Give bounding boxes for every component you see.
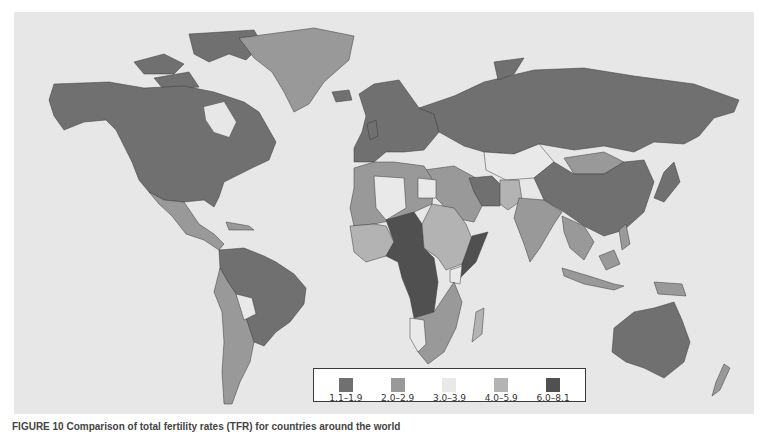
region-europe (354, 80, 439, 162)
region-india (514, 198, 562, 262)
legend-swatch (494, 378, 508, 392)
region-new-zealand (712, 364, 730, 396)
region-north-america (49, 82, 276, 207)
legend-label: 3.0–3.9 (433, 393, 466, 403)
legend-swatch (546, 378, 560, 392)
legend-item: 3.0–3.9 (424, 369, 474, 403)
figure-caption: FIGURE 10 Comparison of total fertility … (12, 421, 400, 432)
region-australia (612, 302, 690, 378)
legend-item: 1.1–1.9 (321, 369, 371, 403)
legend-label: 2.0–2.9 (381, 393, 414, 403)
legend-swatch (442, 378, 456, 392)
world-map (14, 12, 754, 414)
legend-label: 6.0–8.1 (537, 393, 570, 403)
legend-item: 2.0–2.9 (373, 369, 423, 403)
legend-item: 6.0–8.1 (528, 369, 578, 403)
region-russia (419, 68, 739, 154)
legend-swatch (391, 378, 405, 392)
legend-label: 1.1–1.9 (329, 393, 362, 403)
legend-label: 4.0–5.9 (485, 393, 518, 403)
region-japan (654, 162, 680, 202)
legend: 1.1–1.9 2.0–2.9 3.0–3.9 4.0–5.9 6.0–8.1 (313, 368, 586, 402)
legend-swatch (339, 378, 353, 392)
world-map-panel: 1.1–1.9 2.0–2.9 3.0–3.9 4.0–5.9 6.0–8.1 (14, 12, 754, 414)
legend-item: 4.0–5.9 (476, 369, 526, 403)
